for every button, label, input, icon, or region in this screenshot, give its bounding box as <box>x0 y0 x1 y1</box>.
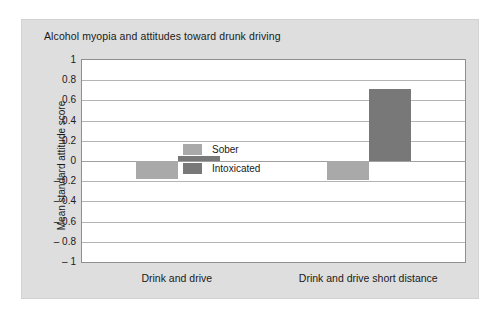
gridline <box>82 201 465 202</box>
chart-legend: SoberIntoxicated <box>183 140 260 178</box>
y-tick-label: – 0.6 <box>38 215 76 226</box>
gridline <box>82 242 465 243</box>
y-tick-label: – 0.4 <box>38 195 76 206</box>
legend-swatch-icon <box>183 163 202 174</box>
bar-intoxicated-1 <box>369 89 411 161</box>
gridline <box>82 222 465 223</box>
legend-label: Intoxicated <box>212 163 260 174</box>
chart-title: Alcohol myopia and attitudes toward drun… <box>44 30 281 42</box>
legend-label: Sober <box>212 144 239 155</box>
y-tick-label: 0.2 <box>38 134 76 145</box>
y-tick-label: 0.8 <box>38 74 76 85</box>
y-tick-label: – 0.8 <box>38 235 76 246</box>
x-category-label: Drink and drive short distance <box>299 272 438 284</box>
y-tick-label: 0 <box>38 155 76 166</box>
gridline <box>82 181 465 182</box>
y-tick-label: 0.6 <box>38 94 76 105</box>
x-category-label: Drink and drive <box>141 272 212 284</box>
y-tick-label: – 0.2 <box>38 175 76 186</box>
y-axis-tick-labels: 10.80.60.40.20– 0.2– 0.4– 0.6– 0.8– 1 <box>34 59 76 261</box>
y-tick-label: – 1 <box>38 256 76 267</box>
bar-sober-1 <box>327 161 369 180</box>
plot-area: SoberIntoxicated <box>81 59 466 263</box>
legend-item-sober: Sober <box>183 140 260 159</box>
y-tick-label: 1 <box>38 54 76 65</box>
gridline <box>82 80 465 81</box>
x-axis-category-labels: Drink and driveDrink and drive short dis… <box>81 272 464 288</box>
chart-figure: Alcohol myopia and attitudes toward drun… <box>0 0 500 316</box>
y-tick-label: 0.4 <box>38 114 76 125</box>
legend-item-intoxicated: Intoxicated <box>183 159 260 178</box>
bar-sober-0 <box>136 161 178 179</box>
legend-swatch-icon <box>183 144 202 155</box>
